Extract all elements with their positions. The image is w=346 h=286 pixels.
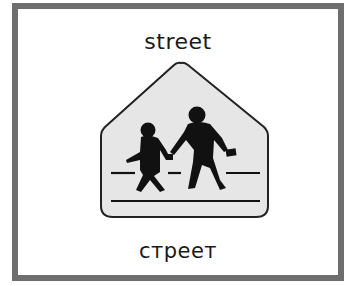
school-crossing-sign-icon — [0, 0, 346, 286]
